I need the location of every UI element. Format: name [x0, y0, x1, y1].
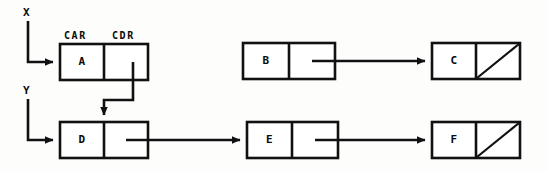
- pointer-Y-to-D: [28, 99, 53, 140]
- variable-label-y: Y: [23, 84, 30, 97]
- variable-label-x: X: [23, 6, 30, 19]
- field-label-cdr: CDR: [112, 30, 135, 41]
- cell-value-E: E: [247, 134, 292, 145]
- cell-value-B: B: [243, 55, 289, 66]
- cell-value-C: C: [432, 55, 476, 66]
- cell-value-A: A: [60, 56, 104, 67]
- cons-cell-diagram: X Y CAR CDR A B C D E F: [0, 0, 548, 171]
- cell-value-F: F: [432, 134, 476, 145]
- field-label-car: CAR: [64, 30, 87, 41]
- cell-value-D: D: [60, 134, 104, 145]
- pointer-X-to-A: [28, 21, 53, 62]
